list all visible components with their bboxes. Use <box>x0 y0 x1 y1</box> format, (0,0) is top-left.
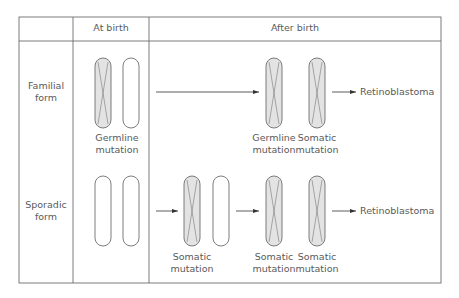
chromosome-mutated <box>266 176 282 246</box>
chromosome-mutated <box>184 176 200 246</box>
caption-line: mutation <box>290 263 344 275</box>
chromosome-normal <box>213 176 229 246</box>
caption-sporadic-intermediate: Somatic mutation <box>162 251 222 275</box>
chromosome-normal <box>95 176 111 246</box>
chromosome-mutated <box>266 58 282 128</box>
row-label-familial: Familial form <box>19 80 73 104</box>
outcome-sporadic: Retinoblastoma <box>360 205 434 217</box>
table-grid <box>19 17 441 283</box>
chromosome-normal <box>123 176 139 246</box>
chromosome-mutated <box>95 58 111 128</box>
row-label-line: form <box>19 211 73 223</box>
chromosome-mutated <box>309 58 325 128</box>
caption-line: Somatic <box>162 251 222 263</box>
row-label-line: Familial <box>19 80 73 92</box>
caption-line: mutation <box>162 263 222 275</box>
caption-line: mutation <box>290 144 344 156</box>
row-label-line: Sporadic <box>19 199 73 211</box>
chromosome-mutated <box>309 176 325 246</box>
caption-sporadic-after-2: Somatic mutation <box>290 251 344 275</box>
caption-familial-at-birth: Germline mutation <box>87 132 147 156</box>
row-label-sporadic: Sporadic form <box>19 199 73 223</box>
chromosome-normal <box>123 58 139 128</box>
caption-line: Somatic <box>290 251 344 263</box>
caption-line: Germline <box>87 132 147 144</box>
outcome-familial: Retinoblastoma <box>360 86 434 98</box>
caption-line: Somatic <box>290 132 344 144</box>
caption-familial-after-2: Somatic mutation <box>290 132 344 156</box>
row-label-line: form <box>19 92 73 104</box>
diagram-canvas <box>0 0 459 298</box>
caption-line: mutation <box>87 144 147 156</box>
header-at-birth: At birth <box>73 22 149 34</box>
header-after-birth: After birth <box>149 22 441 34</box>
